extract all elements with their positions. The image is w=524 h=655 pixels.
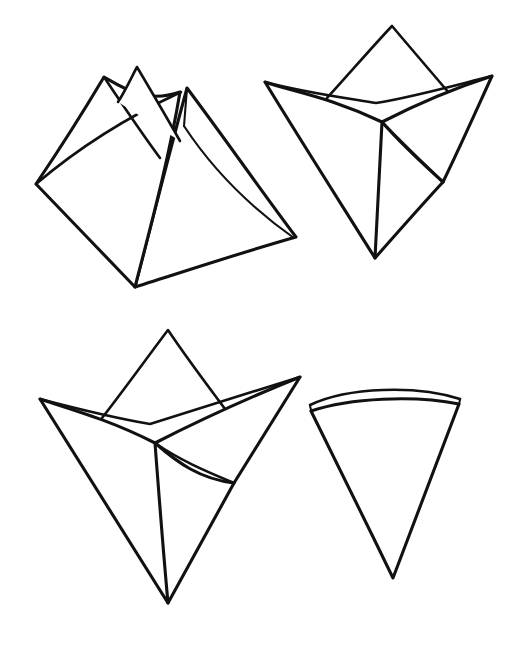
folding-diagram-svg [0,0,524,655]
diagram-canvas: Napkin Folding Diagram Step 1 - folded n… [0,0,524,655]
bottom-right-band-right-cap [459,399,460,405]
